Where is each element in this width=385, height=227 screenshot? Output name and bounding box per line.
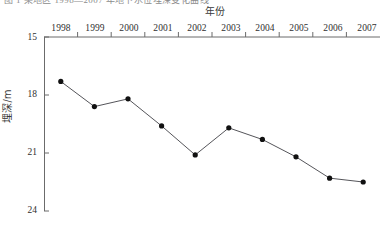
- data-point: [92, 104, 97, 109]
- x-tick-marks: [78, 32, 347, 37]
- data-point: [159, 123, 164, 128]
- data-point: [125, 96, 130, 101]
- data-point: [58, 79, 63, 84]
- data-point: [260, 137, 265, 142]
- plot-area: [0, 0, 385, 227]
- chart-figure: 图 1 某地区 1998—2007 年地下水位埋深变化曲线 年份 埋深/m 19…: [0, 0, 385, 227]
- data-point: [193, 152, 198, 157]
- data-marker-group: [58, 79, 366, 185]
- data-line: [61, 81, 363, 182]
- data-point: [293, 154, 298, 159]
- data-point: [361, 179, 366, 184]
- data-point: [226, 125, 231, 130]
- data-point: [327, 176, 332, 181]
